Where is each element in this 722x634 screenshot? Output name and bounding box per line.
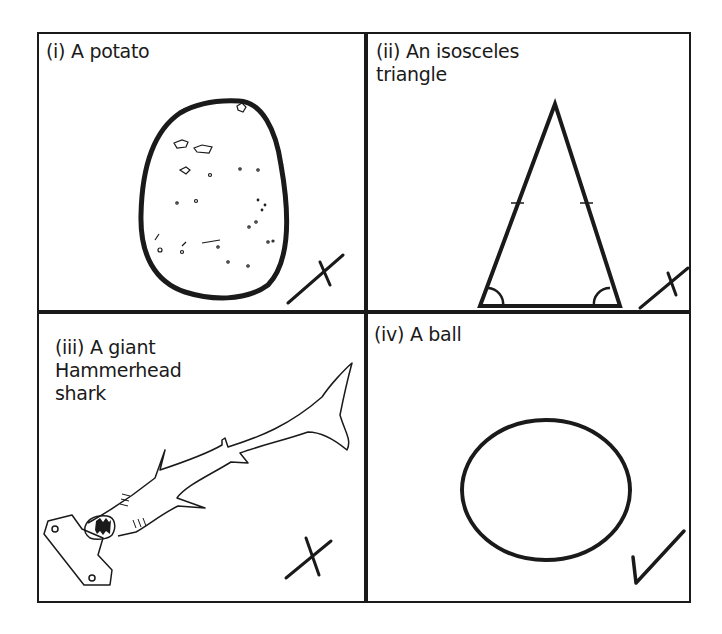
triangle-outline [480,104,620,306]
panel-label-ball: (iv) A ball [374,323,461,346]
shark-teeth [95,518,111,535]
cross-icon [286,538,331,578]
shark-gills [120,494,146,528]
grid-frame [38,33,690,602]
cross-icon [288,255,343,303]
potato-outline [141,101,287,298]
potato-eyes [155,103,274,267]
isosceles-triangle [480,104,620,306]
cross-icon [640,268,688,308]
tick-icon [633,531,684,583]
potato-drawing [141,101,287,298]
diagram-canvas [0,0,722,634]
ball-circle [462,420,630,560]
panel-label-potato: (i) A potato [46,40,149,63]
panel-label-hammerhead-shark: (iii) A giant Hammerhead shark [55,336,182,405]
panel-label-isosceles-triangle: (ii) An isosceles triangle [376,40,519,86]
equal-angle-arcs [488,288,610,306]
